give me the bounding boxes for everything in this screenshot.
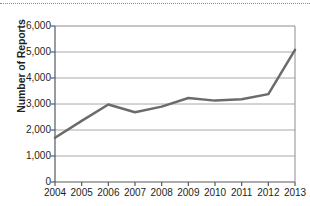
x-axis-tick-labels: 2004200520062007200820092010201120122013 [0, 0, 310, 206]
x-axis-tick-label: 2013 [275, 188, 310, 198]
line-chart: Number of Reports 01,0002,0003,0004,0005… [0, 0, 310, 206]
